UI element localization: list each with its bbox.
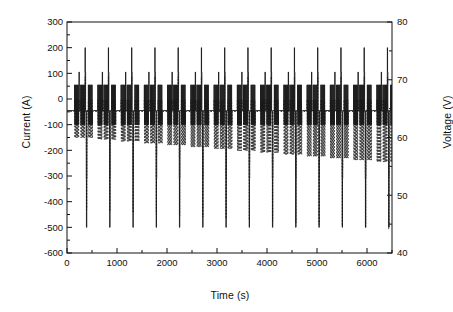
svg-text:300: 300 — [47, 16, 63, 27]
plot-frame — [67, 22, 392, 253]
svg-text:6000: 6000 — [356, 257, 377, 268]
x-axis-title: Time (s) — [150, 289, 310, 301]
svg-text:1000: 1000 — [106, 257, 127, 268]
svg-text:50: 50 — [397, 190, 408, 201]
svg-text:0: 0 — [64, 257, 69, 268]
svg-text:70: 70 — [397, 74, 408, 85]
svg-text:0: 0 — [58, 93, 63, 104]
svg-text:-600: -600 — [44, 247, 63, 258]
svg-text:-400: -400 — [44, 196, 63, 207]
svg-text:3000: 3000 — [206, 257, 227, 268]
svg-text:5000: 5000 — [306, 257, 327, 268]
y-axis-right-title: Voltage (V) — [441, 74, 453, 170]
svg-text:200: 200 — [47, 42, 63, 53]
svg-text:-100: -100 — [44, 119, 63, 130]
y-axis-left-title: Current (A) — [20, 74, 32, 170]
svg-text:-500: -500 — [44, 222, 63, 233]
svg-text:40: 40 — [397, 247, 408, 258]
svg-text:60: 60 — [397, 132, 408, 143]
svg-text:2000: 2000 — [156, 257, 177, 268]
svg-text:-200: -200 — [44, 145, 63, 156]
svg-text:-300: -300 — [44, 170, 63, 181]
svg-text:4000: 4000 — [256, 257, 277, 268]
svg-text:80: 80 — [397, 16, 408, 27]
svg-text:100: 100 — [47, 68, 63, 79]
